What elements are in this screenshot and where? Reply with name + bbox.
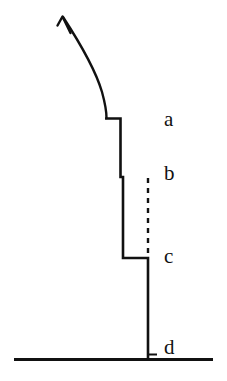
label-c: c: [164, 246, 173, 267]
label-a: a: [164, 109, 173, 130]
label-d: d: [164, 337, 175, 358]
diagram-canvas: [0, 0, 227, 381]
figure-root: a b c d: [0, 0, 227, 381]
label-b: b: [164, 163, 175, 184]
stepped-profile-path: [105, 119, 148, 360]
